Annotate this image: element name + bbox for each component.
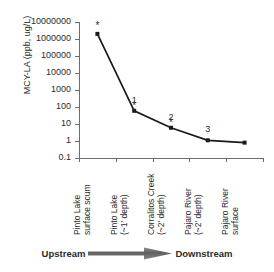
x-category-label: Pinto Lakesurface scum xyxy=(72,184,92,235)
x-category-label-line: (~2' depth) xyxy=(193,188,203,235)
series-line xyxy=(79,22,263,158)
y-tick-label: 1000000 xyxy=(36,33,71,43)
y-tick-label: 10000000 xyxy=(31,16,71,26)
x-axis-line xyxy=(79,158,263,159)
x-tick-mark xyxy=(153,158,154,162)
flow-direction-annotation: Upstream Downstream xyxy=(0,243,274,263)
y-tick-label: 100000 xyxy=(41,50,71,60)
data-point-asterisk: * xyxy=(95,21,99,31)
x-category-label-line: Pajaro River xyxy=(220,188,230,235)
x-tick-mark xyxy=(226,158,227,162)
x-category-label-line: surface xyxy=(230,188,240,235)
x-category-label: Pajaro River(~2' depth) xyxy=(183,188,203,235)
upstream-label: Upstream xyxy=(42,248,86,259)
x-category-label: Pinto Lake(~1' depth) xyxy=(109,194,129,235)
x-category-label: Corralitos Creek(~2' depth) xyxy=(146,174,166,235)
data-point-marker xyxy=(95,32,99,36)
x-tick-mark xyxy=(79,158,80,162)
y-tick-label: 10000 xyxy=(46,67,71,77)
data-point-marker xyxy=(206,138,210,142)
x-tick-mark xyxy=(116,158,117,162)
chart-figure: MCY-LA (ppb, ug/L) 100000001000000100000… xyxy=(0,0,274,272)
y-tick-label: 1 xyxy=(66,135,71,145)
right-arrow-icon xyxy=(88,247,172,260)
data-point-asterisk: * xyxy=(169,118,173,128)
y-tick-label: 10 xyxy=(61,118,71,128)
x-category-label-line: (~1' depth) xyxy=(119,194,129,235)
downstream-label: Downstream xyxy=(175,248,232,259)
data-point-marker xyxy=(243,141,247,145)
x-category-label-line: Corralitos Creek xyxy=(146,174,156,235)
y-tick-label: 1000 xyxy=(51,84,71,94)
x-tick-mark xyxy=(263,158,264,162)
plot-area: 1000000010000001000001000010001001010.1 … xyxy=(79,22,263,158)
x-category-label-line: Pinto Lake xyxy=(109,194,119,235)
data-point-asterisk: * xyxy=(132,101,136,111)
x-category-label-line: Pinto Lake xyxy=(72,184,82,235)
y-tick-label: 100 xyxy=(56,101,71,111)
x-axis-category-labels: Pinto Lakesurface scumPinto Lake(~1' dep… xyxy=(79,163,263,235)
x-category-label-line: Pajaro River xyxy=(183,188,193,235)
x-category-label: Pajaro Riversurface xyxy=(220,188,240,235)
x-category-label-line: (~2' depth) xyxy=(156,174,166,235)
x-category-label-line: surface scum xyxy=(82,184,92,235)
x-tick-mark xyxy=(189,158,190,162)
y-tick-label: 0.1 xyxy=(58,152,71,162)
data-point-label: 3 xyxy=(205,124,210,134)
